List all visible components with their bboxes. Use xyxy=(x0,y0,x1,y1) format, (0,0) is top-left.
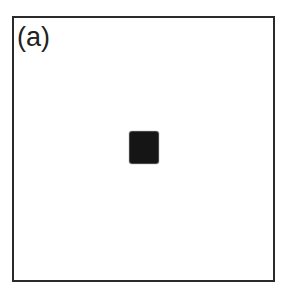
panel-label: (a) xyxy=(17,24,50,51)
center-square xyxy=(130,132,158,163)
